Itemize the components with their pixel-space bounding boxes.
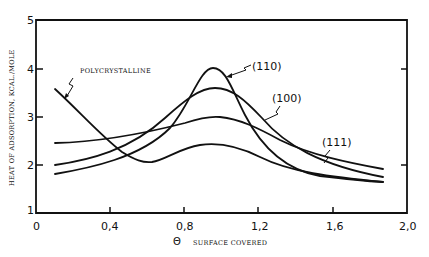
pointer-110 [229, 65, 251, 76]
x-tick-label: 1,2 [251, 220, 269, 233]
annotation-110: (110) [252, 60, 282, 73]
x-tick-label: 1,6 [326, 220, 344, 233]
x-tick-label: 2,0 [399, 220, 417, 233]
chart: 5 4 3 2 1 0 0,4 0,8 1,2 1,6 2,0 Θ SURFAC… [0, 0, 429, 257]
y-tick-label: 4 [27, 63, 34, 76]
pointer-polycrystalline [67, 78, 73, 96]
annotation-polycrystalline: POLYCRYSTALLINE [80, 67, 151, 75]
y-axis-title: HEAT OF ADSORPTION, KCAL./MOLE [8, 49, 16, 186]
x-axis-title: SURFACE COVERED [193, 239, 267, 247]
x-tick-label: 0,8 [176, 220, 194, 233]
y-tick-label: 5 [27, 14, 34, 27]
x-tick-label: 0,4 [101, 220, 119, 233]
annotation-100: (100) [272, 92, 302, 105]
y-tick-label: 1 [27, 204, 34, 217]
x-tick-label: 0 [33, 220, 40, 233]
pointer-100 [265, 106, 280, 120]
y-tick-label: 2 [27, 159, 34, 172]
x-axis-symbol: Θ [173, 236, 181, 247]
y-tick-label: 3 [27, 111, 34, 124]
annotation-111: (111) [322, 136, 352, 149]
